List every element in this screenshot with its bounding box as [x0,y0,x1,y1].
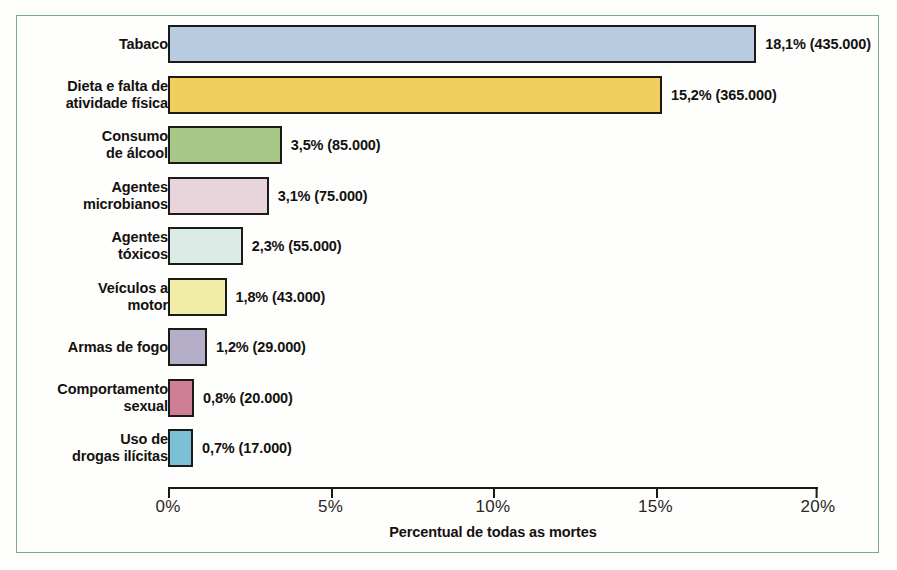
table-row: Uso de drogas ilícitas0,7% (17.000) [0,426,897,470]
bar [168,177,269,215]
bar [168,278,227,316]
axis-tick-label: 0% [155,497,180,517]
bar [168,76,662,114]
bar-category-label: Agentes tóxicos [0,229,168,263]
x-axis-title: Percentual de todas as mortes [168,524,818,540]
bar [168,126,282,164]
bar-category-label: Comportamento sexual [0,381,168,415]
table-row: Consumo de álcool3,5% (85.000) [0,123,897,167]
bar [168,379,194,417]
bar-category-label: Consumo de álcool [0,128,168,162]
table-row: Armas de fogo1,2% (29.000) [0,325,897,369]
table-row: Agentes tóxicos2,3% (55.000) [0,224,897,268]
axis-tick-label: 20% [801,497,836,517]
bar [168,25,756,63]
table-row: Veículos a motor1,8% (43.000) [0,275,897,319]
plot-area: Tabaco18,1% (435.000)Dieta e falta de at… [0,0,897,570]
axis-tick-label: 15% [638,497,673,517]
bar-category-label: Veículos a motor [0,280,168,314]
table-row: Tabaco18,1% (435.000) [0,22,897,66]
bar-value-label: 2,3% (55.000) [252,238,342,254]
bar-category-label: Dieta e falta de atividade física [0,78,168,112]
bar-value-label: 15,2% (365.000) [671,87,777,103]
bar-value-label: 1,2% (29.000) [216,339,306,355]
chart-figure: Tabaco18,1% (435.000)Dieta e falta de at… [0,0,897,570]
bar [168,227,243,265]
bar-category-label: Agentes microbianos [0,179,168,213]
bar-value-label: 0,7% (17.000) [202,440,292,456]
table-row: Agentes microbianos3,1% (75.000) [0,174,897,218]
bar-value-label: 3,5% (85.000) [291,137,381,153]
bar-value-label: 0,8% (20.000) [203,390,293,406]
table-row: Dieta e falta de atividade física15,2% (… [0,73,897,117]
axis-tick-label: 10% [476,497,511,517]
bar-value-label: 3,1% (75.000) [278,188,368,204]
bar-value-label: 18,1% (435.000) [765,36,871,52]
bar [168,328,207,366]
axis-tick-label: 5% [318,497,343,517]
bar-category-label: Uso de drogas ilícitas [0,431,168,465]
bar [168,429,193,467]
x-axis [168,487,818,489]
bar-value-label: 1,8% (43.000) [236,289,326,305]
bar-category-label: Tabaco [0,36,168,53]
bar-category-label: Armas de fogo [0,339,168,356]
table-row: Comportamento sexual0,8% (20.000) [0,376,897,420]
